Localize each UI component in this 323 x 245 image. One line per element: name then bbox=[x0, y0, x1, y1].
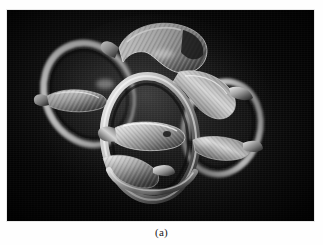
fish-left-tail bbox=[34, 94, 49, 106]
figure-container: (a) bbox=[0, 0, 323, 245]
fish-center-eye bbox=[163, 131, 171, 137]
sculpture-photograph bbox=[7, 10, 314, 221]
figure-image-panel bbox=[7, 10, 314, 221]
figure-caption: (a) bbox=[0, 226, 323, 238]
